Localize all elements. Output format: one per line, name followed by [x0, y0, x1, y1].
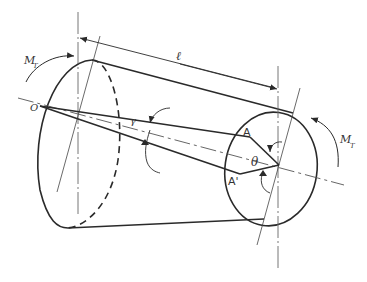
line-o-to-a — [40, 106, 250, 137]
face-twist-arc-bottom — [261, 175, 270, 193]
left-end-face-solid — [38, 60, 92, 228]
right-slanted-centerline — [257, 88, 300, 245]
line-o-to-a-prime — [40, 106, 240, 174]
mid-twist-arc-bottom — [146, 130, 150, 162]
label-torque-right-sub: T — [350, 142, 356, 150]
mid-twist-arc-top — [150, 108, 170, 123]
length-dimension-arrow-right — [180, 64, 277, 89]
mid-twist-arrow-bottom — [147, 162, 160, 173]
left-end-face-hidden — [68, 60, 120, 228]
label-origin: O — [30, 102, 38, 113]
label-point-a-prime: A' — [228, 175, 239, 188]
right-end-face — [218, 106, 325, 232]
label-length: ℓ — [176, 49, 181, 63]
label-twist-angle: θ — [251, 155, 259, 169]
face-twist-arc-top — [270, 142, 282, 152]
shaft-axis — [18, 98, 344, 185]
face-arrowhead-up — [259, 170, 267, 176]
label-torque-left-sub: T — [33, 62, 39, 70]
radius-to-a-prime — [240, 165, 279, 174]
cylinder-bottom-edge — [68, 219, 264, 228]
torque-arrow-right — [311, 118, 338, 167]
cylinder-top-edge — [92, 60, 293, 113]
label-shear-strain: γ — [130, 115, 136, 126]
torsion-diagram: M T ℓ O γ A A' θ M T — [0, 0, 367, 282]
label-point-a: A — [243, 126, 251, 139]
